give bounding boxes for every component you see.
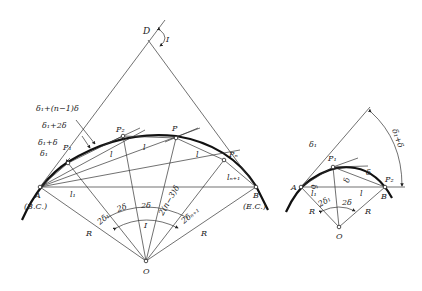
point-O (144, 259, 148, 263)
label-delta-b: δ (342, 177, 352, 183)
left-figure: D I δ₁+(n−1)δ δ₁+2δ δ₁+δ δ₁ P₁ P₂ P Pₙ l… (22, 20, 268, 276)
label-R-right: R (200, 229, 207, 238)
label-d1-d: δ₁+δ (38, 138, 58, 147)
label-D: D (142, 26, 150, 36)
label-B: B (252, 191, 259, 200)
label-l1-right: l₁ (311, 189, 317, 198)
label-d1-d-right: δ₁+δ (390, 128, 405, 150)
label-P: P (171, 124, 178, 133)
label-d1: δ₁ (40, 149, 48, 158)
label-ln1: lₙ₊₁ (227, 173, 240, 182)
label-l1: l₁ (70, 190, 76, 199)
label-l-right: l (360, 189, 363, 198)
label-2d-right: 2δ (341, 198, 352, 207)
label-2dn1: 2δₙ₊₁ (179, 205, 201, 226)
point-P1 (66, 161, 70, 165)
label-P1: P₁ (62, 143, 72, 152)
point-O-right (337, 225, 341, 229)
label-R-left: R (85, 229, 92, 238)
point-P1-right (331, 165, 335, 169)
label-I-top: I (165, 35, 170, 44)
label-l-a: l (110, 150, 113, 159)
label-A-right: A (290, 183, 297, 192)
tangent-line-forward (148, 40, 256, 187)
point-P (174, 136, 178, 140)
point-B (254, 185, 258, 189)
label-2d1: 2δ₁ (95, 211, 112, 227)
label-Pn: Pₙ (228, 150, 238, 159)
label-A: A (34, 191, 41, 200)
right-figure: δ₁ δ₁+δ P₁ δ A P₂ B δ δ l₁ l 2δ₁ 2δ R R … (286, 107, 405, 241)
label-O-right: O (336, 232, 343, 241)
label-O: O (143, 267, 150, 276)
point-Pn (222, 158, 226, 162)
label-2n3: 2(n−3)δ (156, 184, 181, 218)
radius-A (40, 187, 146, 261)
deflection-angle-arc (160, 30, 165, 46)
radius-B (146, 187, 256, 261)
label-d1-n1: δ₁+(n−1)δ (36, 104, 79, 113)
main-curve-right (286, 167, 392, 212)
label-P1-right: P₁ (327, 154, 337, 163)
label-B-right: B (380, 192, 387, 201)
label-I-center: I (143, 221, 148, 230)
label-BC: (B.C.) (24, 202, 47, 211)
label-2d-1: 2δ (115, 202, 128, 214)
point-P2-right (383, 185, 387, 189)
point-A-right (299, 185, 303, 189)
label-R-left-right: R (308, 207, 315, 216)
label-d-right: δ (366, 168, 371, 177)
label-l-b: l (143, 143, 146, 152)
label-2d1-right: 2δ₁ (316, 194, 333, 209)
label-d1-2d: δ₁+2δ (42, 121, 67, 130)
label-P2: P₂ (115, 125, 125, 134)
label-EC: (E.C.) (243, 202, 266, 211)
label-P2-right: P₂ (384, 175, 394, 184)
point-A (38, 185, 42, 189)
label-d1-right: δ₁ (309, 140, 317, 149)
label-l-c: l (196, 150, 199, 159)
point-P2 (121, 134, 125, 138)
label-2d-2: 2δ (140, 201, 151, 210)
curve-layout-diagram: D I δ₁+(n−1)δ δ₁+2δ δ₁+δ δ₁ P₁ P₂ P Pₙ l… (0, 0, 422, 291)
label-R-right-right: R (364, 207, 371, 216)
